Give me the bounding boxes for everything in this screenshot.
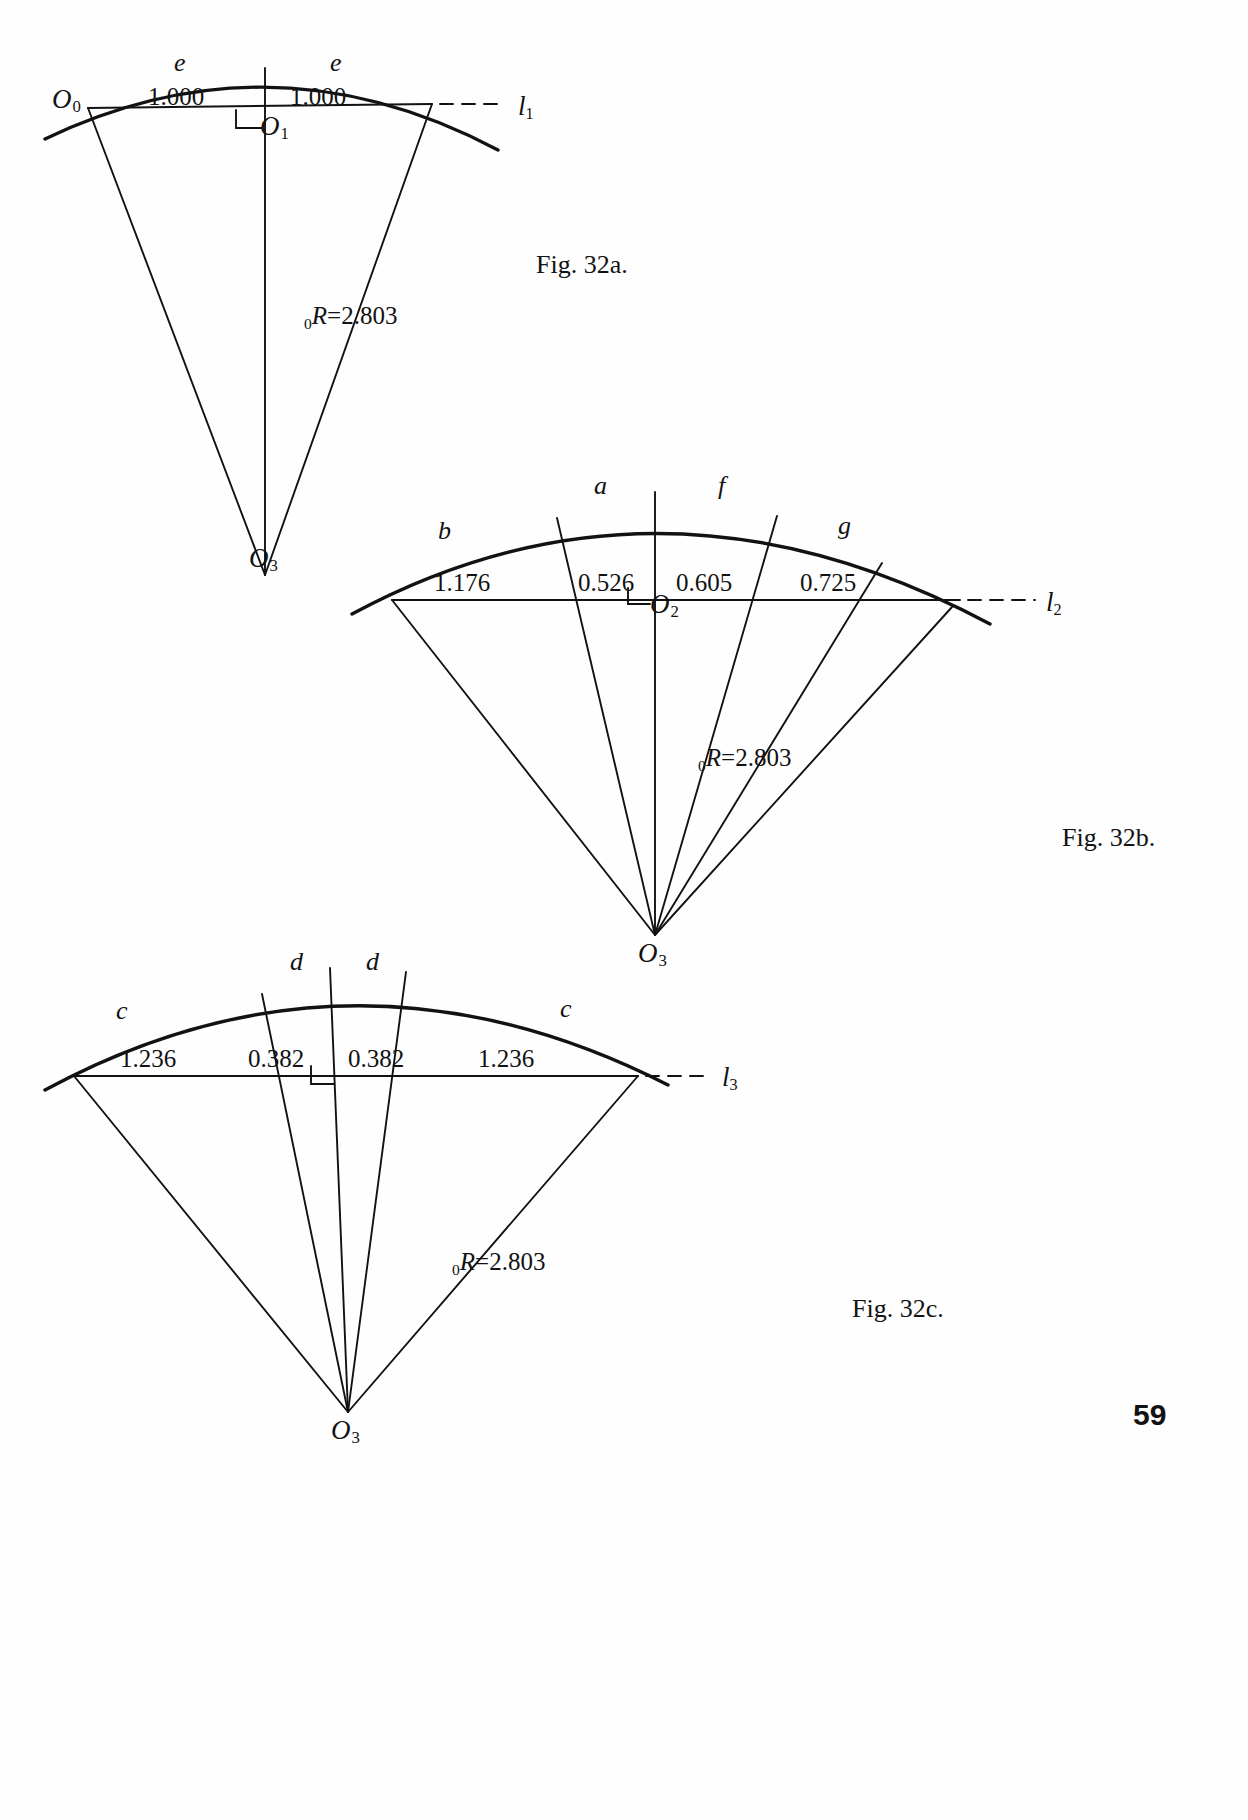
- fig32b-chord-value-2: 0.526: [578, 570, 634, 595]
- fig32c-arc-label-d-right: d: [366, 949, 379, 975]
- fig32b-arc-label-a: a: [594, 473, 607, 499]
- fig32b-chord-value-4: 0.725: [800, 570, 856, 595]
- fig32c-radius-1: [74, 1076, 348, 1412]
- fig32a-radius-left: [88, 108, 265, 575]
- fig32b-caption: Fig. 32b.: [1062, 825, 1155, 851]
- fig32b-arc-label-f: f: [718, 473, 725, 499]
- fig32c-apex-label-O3: O3: [331, 1417, 360, 1447]
- document-page: O0 e e 1.000 1.000 O1 l1 0R=2.803 O3 Fig…: [0, 0, 1248, 1820]
- fig32c-right-angle-mark: [311, 1066, 334, 1084]
- fig32a-line-label-l1: l1: [518, 93, 534, 122]
- fig32c-arc-label-d-left: d: [290, 949, 303, 975]
- fig32c-chord-value-3: 0.382: [348, 1046, 404, 1071]
- fig32c-chord-value-1: 1.236: [120, 1046, 176, 1071]
- fig32a-radius-right: [265, 104, 432, 575]
- fig32a-chord-value-1: 1.000: [148, 84, 204, 109]
- fig32a-point-label-O0: O0: [52, 86, 81, 116]
- fig32b-point-label-O2: O2: [650, 591, 679, 621]
- fig32b-arc-label-g: g: [838, 513, 851, 539]
- fig32a-arc-label-left: e: [174, 50, 186, 76]
- fig32b-apex-label-O3: O3: [638, 940, 667, 970]
- fig32c-chord-value-4: 1.236: [478, 1046, 534, 1071]
- page-number: 59: [1133, 1400, 1166, 1430]
- fig32c-arc-label-c-right: c: [560, 996, 572, 1022]
- fig32b-arc-label-b: b: [438, 518, 451, 544]
- fig32a-caption: Fig. 32a.: [536, 252, 628, 278]
- fig32a-right-angle-mark: [236, 110, 262, 128]
- fig32a-apex-label-O3: O3: [249, 545, 278, 575]
- fig32b-radius-label: 0R=2.803: [698, 745, 791, 773]
- fig32c-line-label-l3: l3: [722, 1064, 738, 1093]
- fig32b-line-label-l2: l2: [1046, 589, 1062, 618]
- fig32b-chord-value-1: 1.176: [434, 570, 490, 595]
- fig32c-caption: Fig. 32c.: [852, 1296, 944, 1322]
- fig32c-radius-3: [330, 968, 348, 1412]
- fig32a-arc-label-right: e: [330, 50, 342, 76]
- fig32c-chord-value-2: 0.382: [248, 1046, 304, 1071]
- fig32c-arc-label-c-left: c: [116, 998, 128, 1024]
- fig32b-chord-value-3: 0.605: [676, 570, 732, 595]
- fig32c-radius-label: 0R=2.803: [452, 1249, 545, 1277]
- fig32a-point-label-O1: O1: [260, 113, 289, 143]
- fig32a-chord-value-2: 1.000: [290, 84, 346, 109]
- fig32c-radius-4: [348, 972, 406, 1412]
- fig32a-radius-label: 0R=2.803: [304, 303, 397, 331]
- fig32c-radius-5: [348, 1076, 638, 1412]
